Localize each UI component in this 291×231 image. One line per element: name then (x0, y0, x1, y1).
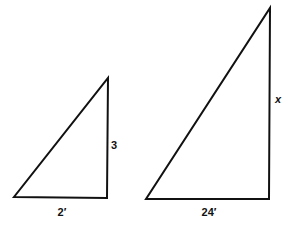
geometry-figure: 3 2′ x 24′ (0, 0, 291, 231)
large-triangle-height-label: x (275, 94, 281, 105)
large-triangle-base-label: 24′ (202, 207, 217, 218)
small-triangle-height-label: 3 (111, 140, 117, 151)
small-triangle-base-label: 2′ (58, 207, 67, 218)
triangles-drawing (0, 0, 291, 231)
